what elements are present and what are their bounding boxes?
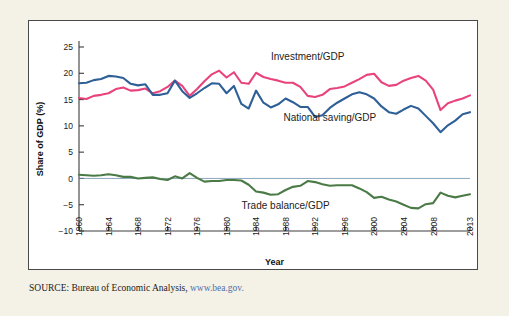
series-line-investment-gdp	[79, 71, 470, 110]
y-tick-label: 10	[64, 121, 74, 131]
chart-plot: 2520151050−5−101960196419681972197619801…	[29, 21, 479, 271]
x-axis-title: Year	[265, 257, 285, 267]
y-tick-label: −5	[63, 200, 73, 210]
x-tick-label: 2004	[399, 217, 409, 236]
x-tick-label: 1980	[222, 217, 232, 236]
y-tick-label: 15	[64, 95, 74, 105]
y-tick-label: 5	[68, 147, 73, 157]
x-tick-label: 1968	[133, 217, 143, 236]
series-label-trade-balance-gdp: Trade balance/GDP	[242, 200, 330, 211]
source-note: SOURCE: Bureau of Economic Analysis, www…	[29, 283, 244, 293]
source-prefix: SOURCE:	[29, 283, 69, 293]
x-tick-label: 1992	[310, 217, 320, 236]
y-tick-label: 0	[68, 174, 73, 184]
y-axis-title: Share of GDP (%)	[35, 102, 45, 176]
x-tick-label: 1984	[251, 217, 261, 236]
x-tick-label: 2008	[429, 217, 439, 236]
x-tick-label: 1996	[340, 217, 350, 236]
x-tick-label: 2000	[369, 217, 379, 236]
x-tick-label: 1960	[74, 217, 84, 236]
y-tick-label: −10	[59, 226, 74, 236]
x-tick-label: 2013	[465, 217, 475, 236]
x-tick-label: 1964	[104, 217, 114, 236]
series-label-national-saving-gdp: National saving/GDP	[283, 112, 376, 123]
chart-panel: 2520151050−5−101960196419681972197619801…	[28, 20, 478, 270]
x-tick-label: 1972	[163, 217, 173, 236]
y-tick-label: 20	[64, 68, 74, 78]
series-layer	[79, 71, 470, 209]
source-url-link[interactable]: www.bea.gov.	[190, 283, 244, 293]
figure-container: 2520151050−5−101960196419681972197619801…	[0, 0, 509, 316]
x-tick-label: 1976	[192, 217, 202, 236]
x-tick-label: 1988	[281, 217, 291, 236]
y-tick-label: 25	[64, 42, 74, 52]
series-line-national-saving-gdp	[79, 76, 470, 132]
series-label-investment-gdp: Investment/GDP	[271, 51, 345, 62]
source-text: Bureau of Economic Analysis,	[69, 283, 190, 293]
